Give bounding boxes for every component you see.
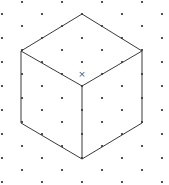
grid-dot [161,181,163,183]
grid-dot [41,181,43,183]
grid-dot [81,181,83,183]
grid-dot [81,61,83,63]
grid-dot [161,13,163,15]
grid-dot [61,1,63,3]
cube-edge-lower-right-to-bottom [82,123,142,159]
cube-edge-upper-left-to-center [21,51,82,86]
grid-dot [61,121,63,123]
grid-dot [161,61,163,63]
grid-dot [1,61,3,63]
grid-dot [21,1,23,3]
grid-dot [81,37,83,39]
cube-edges [21,14,142,159]
grid-dot [61,49,63,51]
cube-edge-top-to-upper-left [21,14,82,51]
grid-dot [101,49,103,51]
grid-dot [121,85,123,87]
grid-dot [161,109,163,111]
grid-dot [21,25,23,27]
grid-dot [101,169,103,171]
grid-dot [161,133,163,135]
grid-dot [41,109,43,111]
grid-dot [141,145,143,147]
isometric-diagram: × [0,0,169,185]
grid-dot [161,157,163,159]
grid-dot [121,13,123,15]
grid-dot [41,85,43,87]
grid-dot [1,157,3,159]
center-marker-icon: × [78,69,86,79]
cube-edge-top-to-upper-right [82,14,142,51]
grid-dot [141,169,143,171]
grid-dot [161,85,163,87]
grid-dot [61,97,63,99]
grid-dot [101,1,103,3]
grid-dot [1,133,3,135]
grid-dot [1,85,3,87]
grid-dot [1,181,3,183]
grid-dot [61,169,63,171]
grid-dot [121,181,123,183]
grid-dot [1,109,3,111]
grid-dot [141,1,143,3]
grid-dot [21,145,23,147]
grid-dot [121,109,123,111]
cube-edge-upper-right-to-center [82,51,142,86]
grid-dot [1,37,3,39]
grid-dot [41,157,43,159]
grid-dot [1,13,3,15]
grid-dot [101,121,103,123]
grid-dot [121,157,123,159]
grid-dot [141,25,143,27]
grid-dot [161,37,163,39]
grid-dot [41,13,43,15]
isometric-cube-canvas: × [0,0,169,185]
grid-dot [21,169,23,171]
grid-dot [101,97,103,99]
cube-edge-lower-left-to-bottom [21,123,82,159]
